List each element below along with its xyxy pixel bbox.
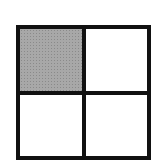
cell-top-right [86,29,148,91]
cell-bottom-left [20,95,82,157]
cell-top-left-shaded [20,29,82,91]
cell-bottom-right [86,95,148,157]
two-by-two-grid [16,25,151,160]
